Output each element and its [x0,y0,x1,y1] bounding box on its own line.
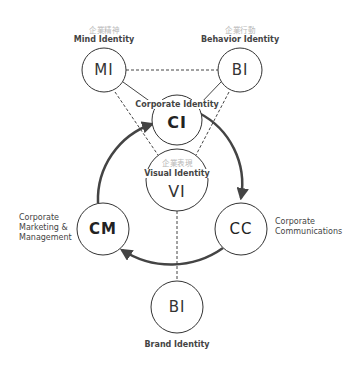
arrow-cc-to-cm [122,248,223,265]
cm-label: Corporate Marketing & Management [19,213,72,243]
cm-label-line-2: Marketing & [19,223,72,233]
cm-abbr: CM [89,220,117,238]
ci-abbr: CI [167,113,187,132]
ci-label: Corporate Identity [134,100,219,109]
cm-label-line-3: Management [19,233,72,243]
bi-bottom-abbr: BI [169,298,186,316]
bi-top-label: Behavior Identity [201,35,279,44]
cc-abbr: CC [230,220,253,238]
mi-label: Mind Identity [74,35,134,44]
vi-abbr: VI [168,182,186,201]
cm-label-line-1: Corporate [19,213,72,223]
bi-top-jp-label: 企業行動 [225,24,255,35]
cc-label-line-2: Communications [275,227,342,237]
vi-label: Visual Identity [143,169,211,178]
cc-label-line-1: Corporate [275,217,342,227]
mi-abbr: MI [94,61,113,79]
cc-label: Corporate Communications [275,217,342,237]
vi-jp-label: 企業表現 [162,157,192,168]
bi-top-abbr: BI [232,61,249,79]
mi-jp-label: 企業精神 [89,24,119,35]
arrow-cm-to-ci [98,124,152,203]
bi-bottom-label: Brand Identity [144,340,209,349]
